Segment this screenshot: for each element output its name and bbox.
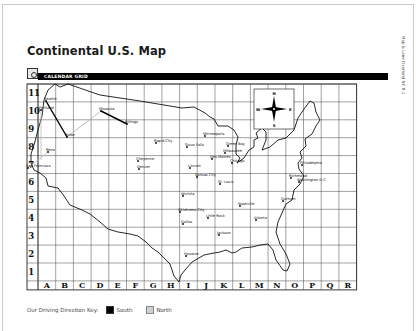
column-label: K <box>220 280 228 290</box>
city-label: Durham <box>281 197 296 201</box>
city-label: Minneapolis <box>203 132 225 136</box>
city-label: Seattle <box>44 97 58 101</box>
city-label: Atlanta <box>254 216 267 220</box>
column-label: J <box>203 280 208 290</box>
row-label: 2 <box>28 249 34 259</box>
map-grid: 1110987654321ABCDEFGHIJKLMNOPQR <box>27 84 357 290</box>
column-label: I <box>187 280 191 290</box>
column-label: N <box>273 280 280 290</box>
city-marker: Wichita <box>181 192 194 197</box>
city-marker: Minneapolis <box>203 132 225 137</box>
city-label: Portland <box>39 106 54 110</box>
driving-direction-legend: Our Driving Direction Key: South North <box>27 306 172 314</box>
city-marker: Nashville <box>238 202 255 207</box>
city-label: Boise <box>65 133 76 137</box>
city-label: Lincoln <box>188 164 201 168</box>
compass-e: E <box>289 107 292 112</box>
city-label: St. Louis <box>218 180 233 184</box>
city-label: Missoula <box>99 107 115 111</box>
city-marker: Boise <box>65 133 76 138</box>
row-label: 5 <box>28 195 34 205</box>
city-label: Houston <box>184 252 199 256</box>
city-marker: Houston <box>184 252 199 257</box>
column-label: C <box>79 280 85 290</box>
city-marker: Jackson <box>216 231 231 236</box>
city-label: Billings <box>125 120 138 124</box>
city-label: San Francisco <box>26 164 51 168</box>
city-label: Jackson <box>216 231 231 235</box>
city-label: Sioux Falls <box>185 143 204 147</box>
city-marker: Rapid City <box>154 139 173 144</box>
row-label: 3 <box>28 231 34 241</box>
city-label: Rapid City <box>154 139 173 143</box>
city-marker: Lincoln <box>188 164 201 169</box>
legend-south-label: South <box>116 307 132 313</box>
row-label: 11 <box>28 88 40 98</box>
city-marker: Denver <box>137 165 151 170</box>
row-label: 1 <box>28 267 34 277</box>
city-marker: Billings <box>125 120 138 125</box>
city-label: Cheyenne <box>136 157 155 161</box>
city-marker: Sioux Falls <box>185 143 204 148</box>
legend-label: Our Driving Direction Key: <box>27 307 98 313</box>
column-label: L <box>239 280 245 290</box>
city-label: Little Rock <box>206 214 226 218</box>
column-label: G <box>150 280 157 290</box>
city-label: Chicago <box>230 159 244 163</box>
city-label: Green Bay <box>226 142 246 146</box>
city-label: Des Moines <box>210 155 231 159</box>
city-label: Dallas <box>181 220 192 224</box>
city-label: Oklahoma City <box>178 208 205 212</box>
city-marker: Kansas City <box>195 173 217 178</box>
legend-south-swatch <box>106 306 114 314</box>
column-label: D <box>96 280 103 290</box>
row-label: 9 <box>28 124 34 134</box>
column-label: R <box>344 280 351 290</box>
city-label: Philadelphia <box>300 161 322 165</box>
column-label: M <box>255 280 264 290</box>
city-label: Reno <box>46 148 55 152</box>
city-label: Kansas City <box>195 173 217 177</box>
city-marker: St. Louis <box>218 180 233 185</box>
city-label: Milwaukee <box>223 149 243 153</box>
row-label: 6 <box>28 177 34 187</box>
city-label: Wichita <box>181 192 194 196</box>
city-marker: Cheyenne <box>136 157 155 162</box>
city-marker: Des Moines <box>210 155 231 160</box>
column-label: F <box>133 280 139 290</box>
compass-s: S <box>273 123 276 128</box>
city-marker: Durham <box>281 197 296 202</box>
city-marker: Missoula <box>99 107 115 112</box>
city-marker: Little Rock <box>206 214 226 219</box>
column-label: Q <box>327 280 334 290</box>
column-label: P <box>309 280 315 290</box>
city-marker: Washington D.C. <box>297 178 327 183</box>
city-label: Washington D.C. <box>297 178 327 182</box>
compass-rose: N S W E <box>254 89 294 129</box>
compass-n: N <box>273 91 276 96</box>
city-marker: Reno <box>46 148 55 153</box>
city-label: Denver <box>137 165 151 169</box>
column-label: O <box>291 280 298 290</box>
row-label: 4 <box>28 213 34 223</box>
city-marker: Atlanta <box>254 216 267 221</box>
column-label: A <box>43 280 51 290</box>
legend-north-swatch <box>146 306 154 314</box>
legend-north-label: North <box>156 307 171 313</box>
city-marker: Dallas <box>181 220 192 225</box>
city-label: Nashville <box>238 202 255 206</box>
column-label: H <box>167 280 175 290</box>
column-label: E <box>115 280 121 290</box>
column-label: B <box>61 280 68 290</box>
city-marker: Oklahoma City <box>178 208 205 213</box>
